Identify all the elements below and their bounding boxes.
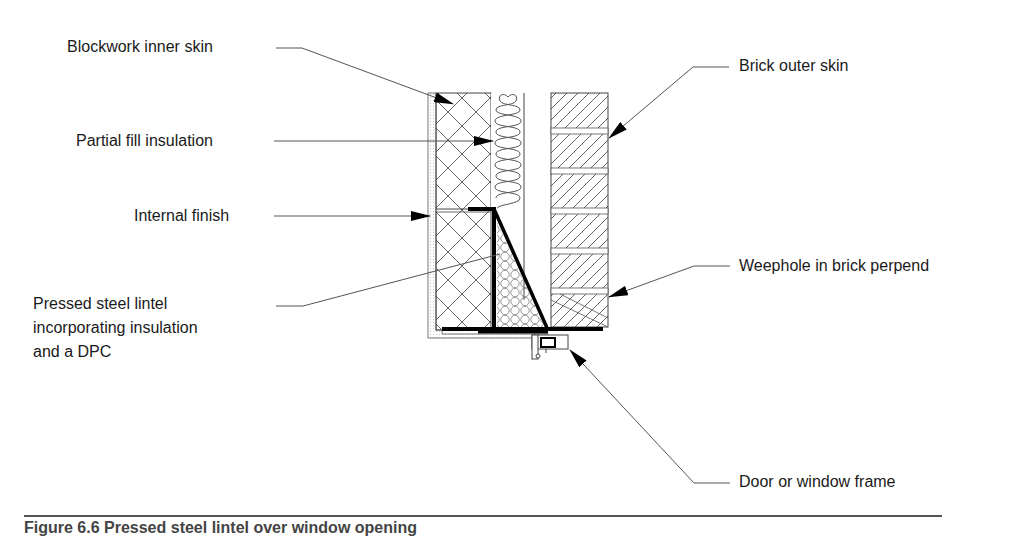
door-window-frame	[532, 335, 568, 359]
label-internal-finish: Internal finish	[134, 206, 229, 225]
caption-divider	[24, 515, 942, 517]
label-partial-fill-insulation: Partial fill insulation	[76, 131, 213, 150]
brick-outer-skin	[551, 93, 608, 327]
leader-brick	[609, 67, 729, 138]
leader-blockwork	[276, 48, 453, 104]
label-blockwork-inner-skin: Blockwork inner skin	[67, 37, 213, 56]
label-lintel-line-1: Pressed steel lintel	[33, 292, 273, 316]
leader-weephole	[609, 266, 730, 297]
label-lintel-line-2: incorporating insulation	[33, 316, 273, 340]
lintel-insulation-fill	[497, 222, 545, 328]
label-weephole: Weephole in brick perpend	[739, 256, 929, 275]
label-door-window-frame: Door or window frame	[739, 472, 896, 491]
label-pressed-steel-lintel: Pressed steel lintel incorporating insul…	[33, 292, 273, 364]
figure-caption: Figure 6.6 Pressed steel lintel over win…	[24, 519, 417, 537]
label-brick-outer-skin: Brick outer skin	[739, 56, 848, 75]
label-lintel-line-3: and a DPC	[33, 340, 273, 364]
blockwork-inner-skin	[436, 93, 491, 330]
leader-frame	[570, 350, 730, 483]
